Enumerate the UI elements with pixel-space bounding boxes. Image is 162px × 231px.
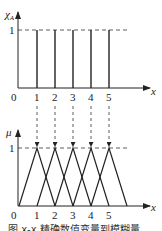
crisp-chart: χA 1 0 x 1 2 3 4 5 bbox=[4, 8, 156, 103]
x-tick: 4 bbox=[88, 209, 94, 221]
mapping-arrows bbox=[37, 106, 109, 146]
figure-caption: 图 x-x 精确数值变量到模糊量 bbox=[8, 223, 140, 231]
x-tick: 3 bbox=[70, 91, 76, 103]
x-tick: 4 bbox=[88, 91, 94, 103]
x-tick: 5 bbox=[106, 91, 112, 103]
origin-label: 0 bbox=[11, 209, 17, 221]
x-axis-label: x bbox=[150, 85, 156, 97]
x-tick: 2 bbox=[52, 91, 58, 103]
y-axis-label: μ bbox=[5, 126, 12, 138]
fuzzy-chart: μ 1 0 x 1 2 3 4 5 bbox=[5, 126, 156, 221]
x-tick: 5 bbox=[106, 209, 112, 221]
x-tick: 2 bbox=[52, 209, 58, 221]
triangular-membership-functions bbox=[19, 148, 127, 206]
y-axis-label: χA bbox=[4, 8, 15, 22]
y-tick-1: 1 bbox=[9, 142, 15, 154]
x-tick: 1 bbox=[34, 209, 40, 221]
x-axis-label: x bbox=[150, 201, 156, 213]
x-tick: 3 bbox=[70, 209, 76, 221]
crisp-bars bbox=[37, 30, 109, 88]
x-tick: 1 bbox=[34, 91, 40, 103]
origin-label: 0 bbox=[11, 91, 17, 103]
y-tick-1: 1 bbox=[9, 24, 15, 36]
fuzzification-diagram: χA 1 0 x 1 2 3 4 5 μ 1 0 x 1 2 3 bbox=[0, 0, 162, 231]
